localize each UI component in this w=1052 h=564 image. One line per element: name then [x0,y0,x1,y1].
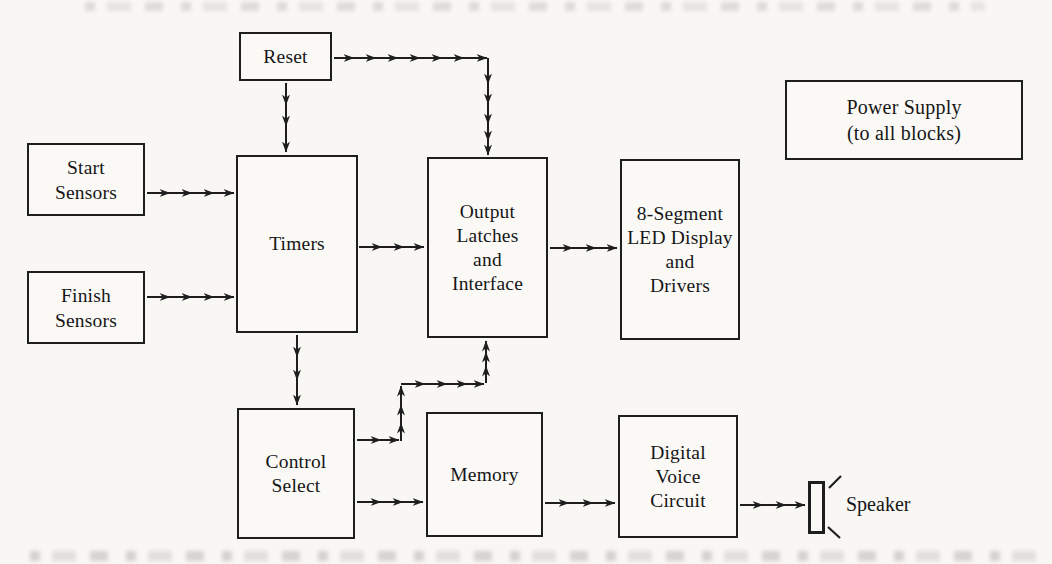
speaker-icon [808,481,825,534]
output-latches-label: Output Latches and Interface [452,200,523,296]
digital-voice-label: Digital Voice Circuit [650,441,706,513]
power-supply-label: Power Supply (to all blocks) [846,94,961,146]
memory-label: Memory [450,463,518,487]
output-latches-block: Output Latches and Interface [427,157,548,338]
reset-label: Reset [263,45,307,69]
speaker-sound-stroke-bottom [828,527,840,538]
diagram-canvas: Reset Start Sensors Finish Sensors Timer… [0,0,1052,564]
speaker-sound-stroke-top [829,476,841,488]
control-select-label: Control Select [266,450,327,498]
power-supply-block: Power Supply (to all blocks) [785,80,1023,160]
start-sensors-label: Start Sensors [55,155,117,205]
finish-sensors-label: Finish Sensors [55,283,117,333]
timers-block: Timers [236,155,358,333]
speaker-label: Speaker [846,493,910,516]
start-sensors-block: Start Sensors [27,143,145,216]
led-display-block: 8-Segment LED Display and Drivers [620,159,740,340]
reset-block: Reset [239,32,332,81]
led-display-label: 8-Segment LED Display and Drivers [627,202,733,298]
control-select-block: Control Select [237,408,355,539]
memory-block: Memory [426,412,543,537]
finish-sensors-block: Finish Sensors [27,271,145,344]
digital-voice-block: Digital Voice Circuit [618,415,738,538]
timers-label: Timers [269,232,325,256]
